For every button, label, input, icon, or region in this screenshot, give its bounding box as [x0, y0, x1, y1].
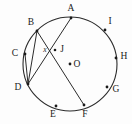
vertex-dot-h [115, 57, 118, 60]
intersection-point-j [54, 49, 57, 52]
vertex-dot-f [83, 104, 86, 107]
vertex-dot-b [36, 30, 39, 33]
point-label-d: D [15, 82, 22, 92]
geometry-figure: ABCDEFGHI O J x [0, 0, 132, 124]
vertex-dot-e [55, 105, 58, 108]
vertex-dot-g [106, 86, 109, 89]
center-label-o: O [74, 59, 81, 69]
point-label-b: B [28, 17, 34, 27]
point-label-e: E [50, 109, 56, 119]
point-label-a: A [68, 3, 75, 13]
vertex-dot-c [24, 53, 27, 56]
geometry-canvas: ABCDEFGHI O J x [0, 0, 132, 124]
point-label-f: F [82, 109, 87, 119]
vertex-dot-i [104, 29, 107, 32]
vertex-dot-a [70, 17, 73, 20]
point-label-i: I [108, 16, 111, 26]
point-label-g: G [113, 84, 120, 94]
chord-b-d [28, 31, 37, 84]
point-label-c: C [12, 48, 18, 58]
vertex-dot-d [27, 83, 30, 86]
point-label-h: H [121, 51, 128, 61]
center-point-o [69, 63, 72, 66]
intersection-label-j: J [60, 44, 64, 54]
angle-label-x: x [42, 45, 47, 54]
